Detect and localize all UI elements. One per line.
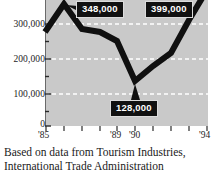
line-chart-figure: 300,000 200,000 100,000 0 '85 '89 '90 '9… <box>0 0 222 139</box>
callout-399000: 399,000 <box>145 1 193 18</box>
x-axis-label-94: '94 <box>199 130 210 140</box>
callout-128000: 128,000 <box>110 100 158 117</box>
x-axis-label-89: '89 <box>110 130 121 140</box>
y-axis-label-300000: 300,000 <box>1 19 45 29</box>
x-axis-label-85: '85 <box>38 130 49 140</box>
caption-line-2: International Trade Administration <box>4 159 218 173</box>
y-axis-label-100000: 100,000 <box>1 89 45 99</box>
x-axis-label-90: '90 <box>129 130 140 140</box>
y-axis-label-0: 0 <box>1 119 45 129</box>
y-axis-label-200000: 200,000 <box>1 54 45 64</box>
callout-348000: 348,000 <box>76 1 124 18</box>
chart-screenshot: 300,000 200,000 100,000 0 '85 '89 '90 '9… <box>0 0 222 177</box>
caption-line-1: Based on data from Tourism Industries, <box>4 145 218 159</box>
x-axis-ticks <box>46 126 207 131</box>
chart-source-caption: Based on data from Tourism Industries, I… <box>4 145 218 173</box>
